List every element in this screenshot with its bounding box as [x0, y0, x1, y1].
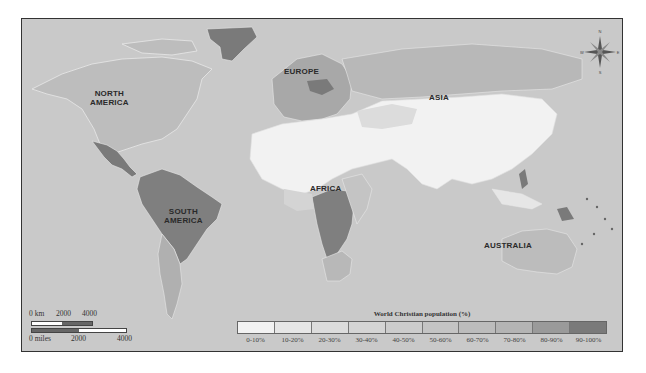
australia-shape	[502, 229, 577, 274]
label-north-america: NORTH AMERICA	[90, 89, 129, 107]
scale-miles-bar	[31, 328, 127, 333]
label-africa: AFRICA	[310, 184, 341, 193]
map-frame: NORTH AMERICA EUROPE ASIA AFRICA SOUTH A…	[21, 18, 623, 352]
compass-rose-icon: N S E W	[580, 27, 620, 77]
legend-swatch-60-70	[459, 322, 496, 333]
scale-km-bar	[31, 321, 93, 326]
label-south-america-line1: SOUTH	[164, 207, 203, 216]
legend-label: 50-60%	[422, 336, 459, 344]
compass-n: N	[599, 29, 602, 34]
label-australia-text: AUSTRALIA	[484, 241, 532, 250]
legend-label: 70-80%	[496, 336, 533, 344]
scale-miles-2000: 2000	[71, 334, 86, 343]
legend-swatch-90-100	[570, 322, 606, 333]
legend: World Christian population (%) 0-10% 10-…	[237, 309, 607, 344]
legend-label: 90-100%	[570, 336, 607, 344]
label-africa-text: AFRICA	[310, 184, 341, 193]
legend-label: 20-30%	[311, 336, 348, 344]
legend-label: 0-10%	[237, 336, 274, 344]
legend-swatches	[237, 321, 607, 334]
label-north-america-line2: AMERICA	[90, 98, 129, 107]
scale-km-0: 0 km	[29, 309, 44, 318]
scale-miles-4000: 4000	[117, 334, 132, 343]
label-north-america-line1: NORTH	[90, 89, 129, 98]
legend-label: 40-50%	[385, 336, 422, 344]
label-asia: ASIA	[429, 93, 449, 102]
legend-swatch-20-30	[312, 322, 349, 333]
label-europe-text: EUROPE	[284, 67, 319, 76]
scale-miles-0: 0 miles	[29, 334, 51, 343]
compass-s: S	[599, 70, 602, 75]
legend-label: 30-40%	[348, 336, 385, 344]
legend-label: 60-70%	[459, 336, 496, 344]
legend-swatch-10-20	[275, 322, 312, 333]
legend-labels: 0-10% 10-20% 20-30% 30-40% 40-50% 50-60%…	[237, 336, 607, 344]
scale-km-4000: 4000	[82, 309, 97, 318]
compass-e: E	[617, 50, 620, 55]
legend-label: 10-20%	[274, 336, 311, 344]
legend-swatch-40-50	[386, 322, 423, 333]
legend-swatch-70-80	[496, 322, 533, 333]
label-australia: AUSTRALIA	[484, 241, 532, 250]
scale-bar: 0 km 2000 4000 0 miles 2000 4000	[29, 309, 139, 349]
legend-title: World Christian population (%)	[237, 309, 607, 319]
label-south-america-line2: AMERICA	[164, 216, 203, 225]
legend-swatch-0-10	[238, 322, 275, 333]
scale-km-2000: 2000	[56, 309, 71, 318]
legend-label: 80-90%	[533, 336, 570, 344]
label-south-america: SOUTH AMERICA	[164, 207, 203, 225]
legend-swatch-80-90	[533, 322, 570, 333]
legend-swatch-30-40	[349, 322, 386, 333]
legend-swatch-50-60	[423, 322, 460, 333]
label-europe: EUROPE	[284, 67, 319, 76]
compass-w: W	[580, 50, 584, 55]
label-asia-text: ASIA	[429, 93, 449, 102]
